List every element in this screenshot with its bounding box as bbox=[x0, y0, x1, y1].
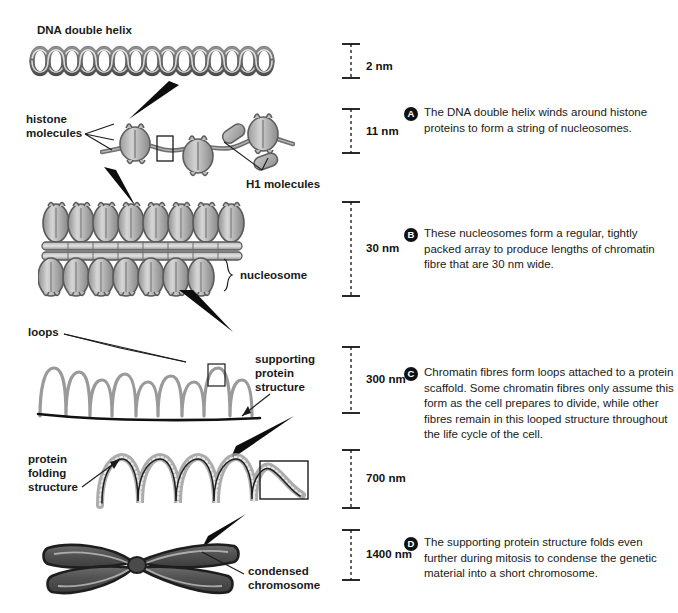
condensed-chromosome-leader bbox=[200, 548, 248, 578]
scale-bar-700nm bbox=[340, 448, 362, 510]
label-supporting-line1: supporting bbox=[255, 352, 315, 366]
scale-bar-300nm bbox=[340, 345, 362, 415]
scale-label-2nm: 2 nm bbox=[366, 60, 393, 72]
scale-label-11nm: 11 nm bbox=[366, 125, 399, 137]
note-text-b: These nucleosomes form a regular, tightl… bbox=[424, 226, 676, 273]
scale-bar-11nm bbox=[340, 107, 362, 155]
label-condensed-line2: chromosome bbox=[248, 578, 320, 592]
arrow-fibre-to-loops bbox=[175, 288, 241, 334]
label-loops: loops bbox=[28, 325, 59, 339]
label-h1-molecules: H1 molecules bbox=[246, 177, 320, 191]
note-badge-a: A bbox=[404, 107, 418, 121]
loops-leader-lines bbox=[62, 330, 192, 370]
label-dna-double-helix: DNA double helix bbox=[37, 23, 132, 37]
dna-double-helix-illustration bbox=[28, 38, 278, 84]
dna-packaging-figure: DNA double helix bbox=[0, 0, 678, 613]
scale-label-300nm: 300 nm bbox=[366, 373, 406, 385]
nucleosome-bracket bbox=[222, 258, 236, 292]
label-protein-folding-line2: folding bbox=[28, 466, 66, 480]
label-condensed-line1: condensed bbox=[248, 564, 309, 578]
note-badge-b: B bbox=[404, 228, 418, 242]
protein-folding-leader bbox=[80, 455, 124, 491]
label-histone-molecules-line2: molecules bbox=[26, 126, 82, 140]
note-badge-c: C bbox=[404, 367, 418, 381]
label-histone-molecules-line1: histone bbox=[26, 112, 67, 126]
scale-label-1400nm: 1400 nm bbox=[366, 548, 412, 560]
note-badge-d: D bbox=[404, 537, 418, 551]
label-protein-folding-line3: structure bbox=[28, 480, 78, 494]
note-text-a: The DNA double helix winds around histon… bbox=[424, 105, 676, 136]
histone-leader-lines bbox=[84, 118, 120, 154]
scale-label-700nm: 700 nm bbox=[366, 472, 406, 484]
h1-leader-lines bbox=[222, 140, 284, 176]
scale-bar-2nm bbox=[340, 42, 362, 80]
note-text-d: The supporting protein structure folds e… bbox=[424, 535, 676, 582]
label-supporting-line2: protein bbox=[255, 366, 294, 380]
chromatin-fibre-30nm-illustration bbox=[38, 198, 248, 302]
note-text-c: Chromatin fibres form loops attached to … bbox=[424, 365, 676, 443]
scale-label-30nm: 30 nm bbox=[366, 242, 399, 254]
label-nucleosome: nucleosome bbox=[240, 268, 307, 282]
scale-bar-30nm bbox=[340, 200, 362, 298]
label-protein-folding-line1: protein bbox=[28, 452, 67, 466]
scale-bar-1400nm bbox=[340, 528, 362, 582]
